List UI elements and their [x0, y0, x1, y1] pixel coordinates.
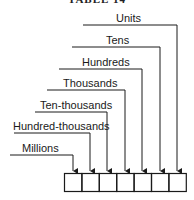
- label-units: Units: [116, 12, 142, 24]
- millions-leader: [10, 155, 73, 171]
- digit-box-millions: [65, 174, 82, 192]
- digit-box-units: [169, 174, 186, 192]
- label-ten-thousands: Ten-thousands: [40, 99, 113, 111]
- label-millions: Millions: [22, 142, 59, 154]
- label-tens: Tens: [106, 34, 130, 46]
- digit-box-tens: [152, 174, 169, 192]
- digit-boxes: [65, 174, 187, 192]
- label-hundreds: Hundreds: [82, 56, 130, 68]
- digit-box-hundreds: [134, 174, 151, 192]
- digit-box-hundred-thousands: [82, 174, 99, 192]
- label-thousands: Thousands: [63, 77, 118, 89]
- place-value-diagram: Units Tens Hundreds Thousands Ten-thousa…: [0, 0, 194, 200]
- digit-box-thousands: [117, 174, 134, 192]
- digit-box-ten-thousands: [99, 174, 116, 192]
- label-hundred-thousands: Hundred-thousands: [13, 120, 110, 132]
